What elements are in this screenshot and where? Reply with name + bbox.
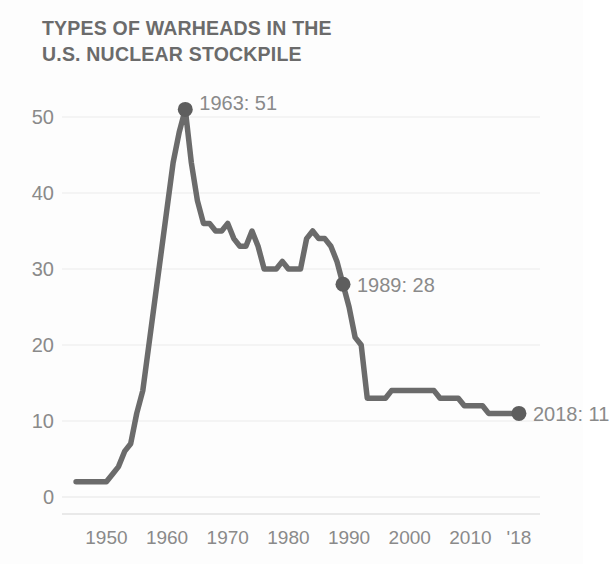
y-axis-tick-40: 40 [8, 183, 54, 203]
y-axis-tick-10: 10 [8, 411, 54, 431]
annotation-label-1963: 1963: 51 [199, 93, 277, 113]
x-axis-tick-1970: 1970 [207, 528, 249, 547]
y-axis-tick-20: 20 [8, 335, 54, 355]
x-axis-tick-2010: 2010 [449, 528, 491, 547]
data-series-line [76, 109, 519, 481]
annotation-markers [178, 102, 527, 421]
x-axis-tick-1960: 1960 [146, 528, 188, 547]
x-axis-tick-18: '18 [507, 528, 532, 547]
data-point-marker [511, 406, 526, 421]
data-point-marker [178, 102, 193, 117]
x-axis-tick-1980: 1980 [267, 528, 309, 547]
data-point-marker [336, 277, 351, 292]
annotation-label-1989: 1989: 28 [357, 275, 435, 295]
x-axis-tick-1990: 1990 [328, 528, 370, 547]
y-axis-tick-0: 0 [8, 487, 54, 507]
y-axis-tick-30: 30 [8, 259, 54, 279]
x-axis-tick-1950: 1950 [85, 528, 127, 547]
annotation-label-2018: 2018: 11 [533, 404, 609, 424]
y-axis-tick-50: 50 [8, 107, 54, 127]
x-axis-tick-2000: 2000 [389, 528, 431, 547]
